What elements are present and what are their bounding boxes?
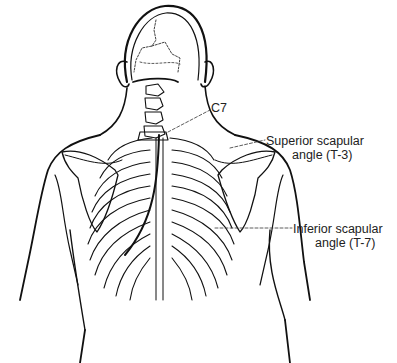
head bbox=[100, 6, 235, 135]
skeleton-illustration bbox=[0, 0, 397, 363]
c7-leader bbox=[168, 110, 210, 132]
rib-cage bbox=[88, 138, 234, 300]
label-c7: C7 bbox=[211, 101, 227, 115]
inferior-line2: angle (T-7) bbox=[293, 236, 383, 250]
inferior-line1: Inferior scapular bbox=[293, 222, 383, 236]
anatomy-diagram: C7 Superior scapular angle (T-3) Inferio… bbox=[0, 0, 397, 363]
label-inferior-scapular-angle: Inferior scapular angle (T-7) bbox=[293, 222, 383, 250]
cervical-spine bbox=[138, 84, 168, 140]
superior-line1: Superior scapular bbox=[266, 134, 364, 148]
superior-line2: angle (T-3) bbox=[266, 148, 364, 162]
label-superior-scapular-angle: Superior scapular angle (T-3) bbox=[266, 134, 364, 162]
superior-leader bbox=[230, 140, 265, 148]
